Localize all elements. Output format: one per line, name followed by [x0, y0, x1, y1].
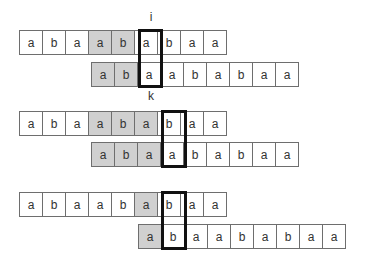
cell: a: [19, 111, 43, 136]
cell-matched: a: [91, 142, 115, 167]
cell: b: [42, 111, 66, 136]
cell-matched: b: [114, 142, 138, 167]
cell: a: [19, 30, 43, 55]
cell: a: [203, 192, 227, 217]
cell: b: [276, 224, 300, 249]
cell: b: [229, 142, 253, 167]
step2-pattern-row: a b a a b a b a a: [91, 142, 299, 167]
cell: a: [252, 62, 276, 87]
cell-matched: b: [111, 30, 135, 55]
cell: a: [65, 30, 89, 55]
cell: a: [275, 142, 299, 167]
cell: a: [275, 62, 299, 87]
cell: a: [65, 111, 89, 136]
cell-matched: a: [134, 111, 158, 136]
cell: a: [252, 142, 276, 167]
cell: b: [111, 192, 135, 217]
cell: b: [183, 62, 207, 87]
step1-pattern-row: a b a a b a b a a: [91, 62, 299, 87]
cell: a: [322, 224, 346, 249]
cell-matched: b: [114, 62, 138, 87]
pointer-label-k: k: [145, 89, 157, 103]
cell: a: [184, 224, 208, 249]
step3-text-row: a b a a b a b a a: [19, 192, 227, 217]
step1-text-row: a b a a b a b a a: [19, 30, 227, 55]
cell: a: [253, 224, 277, 249]
cell-matched: a: [88, 30, 112, 55]
cell: a: [206, 142, 230, 167]
comparison-highlight-box: [161, 191, 187, 250]
cell-matched: a: [91, 62, 115, 87]
cell-matched: a: [88, 111, 112, 136]
cell: a: [180, 30, 204, 55]
cell: a: [207, 224, 231, 249]
pointer-label-i: i: [145, 10, 157, 24]
comparison-highlight-box: [161, 110, 187, 168]
step2-text-row: a b a a b a b a a: [19, 111, 227, 136]
comparison-highlight-box: [138, 29, 163, 88]
cell: a: [160, 62, 184, 87]
cell: a: [203, 111, 227, 136]
cell: b: [230, 224, 254, 249]
cell-matched: a: [138, 224, 162, 249]
cell: a: [88, 192, 112, 217]
cell: a: [206, 62, 230, 87]
cell: b: [42, 30, 66, 55]
cell: a: [65, 192, 89, 217]
cell: b: [229, 62, 253, 87]
cell: a: [203, 30, 227, 55]
cell: a: [299, 224, 323, 249]
cell-matched: a: [134, 192, 158, 217]
cell-matched: a: [137, 142, 161, 167]
cell: a: [19, 192, 43, 217]
cell: b: [42, 192, 66, 217]
cell-matched: b: [111, 111, 135, 136]
